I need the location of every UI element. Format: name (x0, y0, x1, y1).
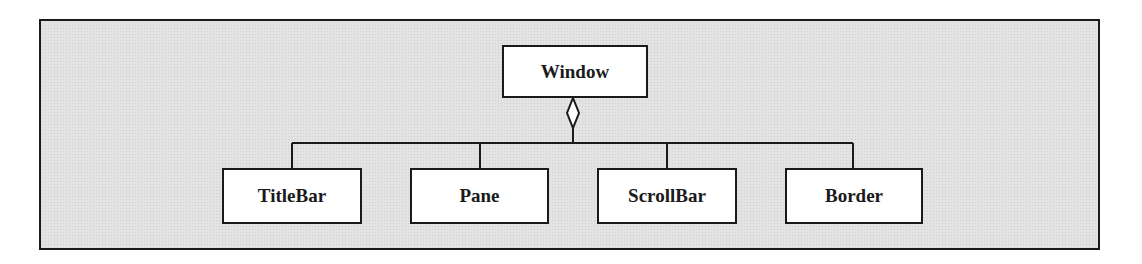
class-label: Pane (459, 185, 499, 207)
class-label: TitleBar (258, 185, 326, 207)
class-label: Window (541, 61, 609, 83)
class-window: Window (502, 45, 648, 98)
class-label: Border (825, 185, 883, 207)
class-border: Border (785, 168, 923, 224)
aggregation-diamond-icon (567, 98, 579, 128)
class-pane: Pane (410, 168, 549, 224)
connector-lines (0, 0, 1142, 264)
class-label: ScrollBar (628, 185, 706, 207)
class-scrollbar: ScrollBar (597, 168, 737, 224)
class-titlebar: TitleBar (222, 168, 362, 224)
